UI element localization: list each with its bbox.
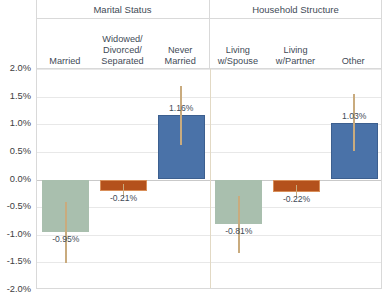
- group-title-label: Marital Status: [93, 4, 151, 15]
- y-tick-label-7: -1.5%: [7, 256, 31, 266]
- category-header-label: Other: [342, 56, 365, 67]
- category-header-label: Livingw/Spouse: [218, 45, 258, 67]
- plot-group-divider: [210, 69, 211, 288]
- category-header-line: w/Partner: [276, 56, 315, 67]
- y-tick-label-2: 1.0%: [10, 118, 31, 128]
- error-bar-4: [238, 196, 240, 253]
- category-header-label: Married: [49, 56, 80, 67]
- error-bar-1: [65, 202, 67, 264]
- data-label-6: 1.03%: [342, 111, 366, 121]
- y-axis-tick-labels: 2.0%1.5%1.0%0.5%0.0%-0.5%-1.0%-1.5%-2.0%: [0, 68, 34, 289]
- group-title-label: Household Structure: [252, 4, 339, 15]
- gridline-1: [37, 124, 381, 125]
- data-label-1: -0.95%: [52, 234, 79, 244]
- data-label-4: -0.81%: [225, 226, 252, 236]
- gridline--1.5: [37, 262, 381, 263]
- category-header-line: Married: [49, 56, 80, 67]
- y-tick-label-3: 0.5%: [10, 146, 31, 156]
- gridline-1.5: [37, 97, 381, 98]
- category-header-line: Separated: [101, 56, 143, 67]
- gridline--1: [37, 235, 381, 236]
- category-header-6: Other: [324, 19, 382, 69]
- category-header-line: w/Spouse: [218, 56, 258, 67]
- category-header-2: Widowed/Divorced/Separated: [94, 19, 152, 69]
- category-header-label: Widowed/Divorced/Separated: [101, 34, 143, 67]
- category-header-line: Never: [165, 45, 196, 56]
- category-header-line: Widowed/: [101, 34, 143, 45]
- header-divider-left: [36, 0, 37, 68]
- y-tick-label-6: -1.0%: [7, 229, 31, 239]
- gridline-0.5: [37, 152, 381, 153]
- category-header-line: Living: [218, 45, 258, 56]
- category-header-line: Living: [276, 45, 315, 56]
- group-title-marital-status: Marital Status: [36, 0, 209, 18]
- y-tick-label-1: 1.5%: [10, 91, 31, 101]
- y-tick-label-4: 0.0%: [10, 174, 31, 184]
- group-title-household-structure: Household Structure: [209, 0, 382, 18]
- chart-header-table: Marital Status Household Structure Marri…: [36, 0, 382, 68]
- data-label-5: -0.22%: [283, 194, 310, 204]
- category-header-label: NeverMarried: [165, 45, 196, 67]
- category-header-1: Married: [36, 19, 94, 69]
- category-header-3: NeverMarried: [151, 19, 209, 69]
- plot-area: -0.95%-0.21%1.16%-0.81%-0.22%1.03%: [36, 68, 382, 289]
- y-tick-label-0: 2.0%: [10, 63, 31, 73]
- category-header-4: Livingw/Spouse: [209, 19, 267, 69]
- category-header-5: Livingw/Partner: [267, 19, 325, 69]
- data-label-3: 1.16%: [169, 103, 193, 113]
- error-bar-3: [180, 86, 182, 146]
- category-header-label: Livingw/Partner: [276, 45, 315, 67]
- category-header-line: Married: [165, 56, 196, 67]
- error-bar-6: [353, 94, 355, 150]
- gridline-2: [37, 69, 381, 70]
- header-divider-middle: [209, 0, 210, 68]
- y-tick-label-5: -0.5%: [7, 201, 31, 211]
- category-header-line: Other: [342, 56, 365, 67]
- chart-root: Marital Status Household Structure Marri…: [0, 0, 382, 293]
- data-label-2: -0.21%: [110, 193, 137, 203]
- y-tick-label-8: -2.0%: [7, 284, 31, 293]
- category-header-line: Divorced/: [101, 45, 143, 56]
